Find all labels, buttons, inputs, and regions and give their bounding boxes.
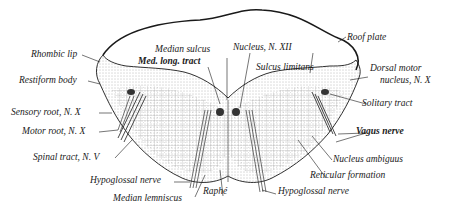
label-hypoglossal-nerve-left: Hypoglossal nerve xyxy=(90,176,161,186)
label-reticular-formation: Reticular formation xyxy=(310,171,385,181)
label-sensory-root-n-x: Sensory root, N. X xyxy=(11,108,81,118)
label-vagus-nerve: Vagus nerve xyxy=(356,127,404,137)
label-rhombic-lip: Rhombic lip xyxy=(31,50,77,60)
label-nucleus-ambiguus: Nucleus ambiguus xyxy=(333,155,403,165)
label-raphe: Raphé xyxy=(203,187,227,197)
label-spinal-tract-n-v: Spinal tract, N. V xyxy=(33,153,99,163)
label-solitary-tract: Solitary tract xyxy=(362,99,412,109)
label-median-sulcus: Median sulcus xyxy=(155,45,210,55)
label-med-long-tract: Med. long. tract xyxy=(138,57,200,67)
label-hypoglossal-nerve-right: Hypoglossal nerve xyxy=(278,187,349,197)
label-motor-root-n-x: Motor root, N. X xyxy=(22,127,85,137)
label-sulcus-limitans: Sulcus limitans xyxy=(256,63,314,73)
label-dorsal-motor-nucleus-line2: nucleus, N. X xyxy=(380,76,431,86)
label-median-lemniscus: Median lemniscus xyxy=(113,194,182,204)
label-nucleus-n-xii: Nucleus, N. XII xyxy=(233,43,292,53)
label-dorsal-motor-nucleus-line1: Dorsal motor xyxy=(370,64,421,74)
label-roof-plate: Roof plate xyxy=(347,33,386,43)
label-restiform-body: Restiform body xyxy=(19,76,77,86)
medulla-cross-section-figure: Rhombic lip Restiform body Sensory root,… xyxy=(0,0,454,214)
